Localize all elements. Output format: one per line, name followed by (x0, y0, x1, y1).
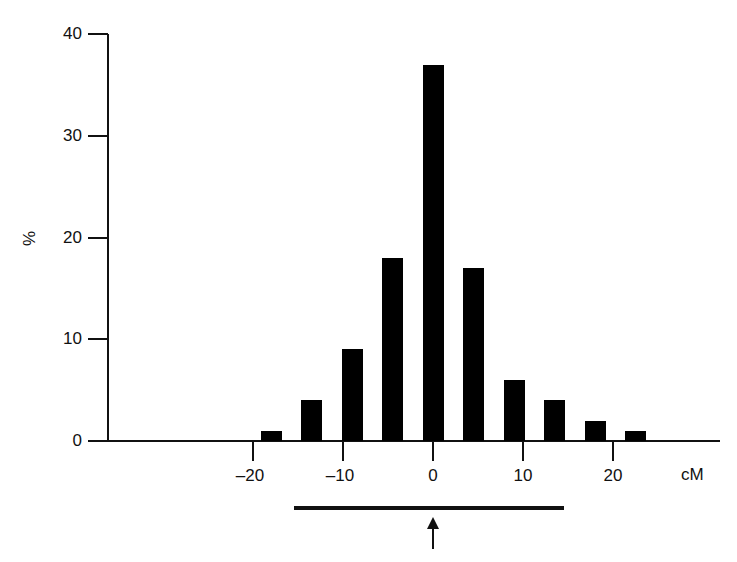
up-arrow-icon (423, 516, 443, 550)
histogram-bar (382, 258, 403, 441)
y-tick (88, 33, 108, 35)
x-tick-label: 10 (498, 467, 548, 484)
histogram-bar (463, 268, 484, 441)
y-tick (88, 440, 108, 442)
histogram-bar (261, 431, 282, 441)
histogram-bar (504, 380, 525, 441)
x-tick (342, 441, 344, 461)
y-tick-label: 10 (42, 330, 82, 347)
histogram-bar (342, 349, 363, 441)
y-tick-label: 30 (42, 127, 82, 144)
x-tick (612, 441, 614, 461)
histogram-bar (625, 431, 646, 441)
histogram-chart: 010203040 –20–1001020 % cM (0, 0, 737, 562)
y-axis-title: % (21, 231, 38, 246)
x-tick (522, 441, 524, 461)
x-tick-label: 0 (408, 467, 458, 484)
histogram-bar (423, 65, 444, 441)
x-axis-title: cM (681, 466, 704, 483)
histogram-bar (585, 421, 606, 441)
y-tick-label: 0 (42, 432, 82, 449)
x-tick-label: 20 (588, 467, 638, 484)
y-tick (88, 135, 108, 137)
histogram-bar (544, 400, 565, 441)
y-tick (88, 237, 108, 239)
histogram-bar (301, 400, 322, 441)
x-tick-label: –10 (315, 467, 365, 484)
x-tick (432, 441, 434, 461)
confidence-interval-bar (294, 506, 564, 510)
x-tick-label: –20 (225, 467, 275, 484)
y-tick-label: 40 (42, 25, 82, 42)
y-tick-label: 20 (42, 229, 82, 246)
x-tick (252, 441, 254, 461)
y-tick (88, 338, 108, 340)
